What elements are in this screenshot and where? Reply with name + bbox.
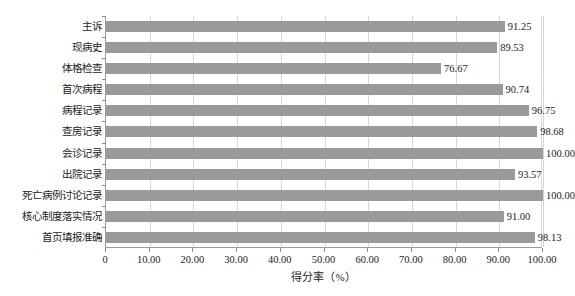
x-axis-tick-label: 30.00 bbox=[224, 253, 248, 266]
x-axis-tick bbox=[149, 248, 150, 252]
category-label: 会诊记录 bbox=[62, 148, 102, 159]
x-axis-tick bbox=[236, 248, 237, 252]
bar-row: 会诊记录100.00 bbox=[106, 143, 541, 164]
bar bbox=[106, 42, 497, 53]
bar bbox=[106, 105, 529, 116]
x-axis-tick-label: 50.00 bbox=[312, 253, 336, 266]
x-axis-tick bbox=[542, 248, 543, 252]
x-axis-tick-label: 70.00 bbox=[399, 253, 423, 266]
y-axis-tick bbox=[102, 185, 106, 186]
x-axis-tick-label: 60.00 bbox=[355, 253, 379, 266]
bars-layer: 主诉91.25现病史89.53体格检查76.67首次病程90.74病程记录96.… bbox=[106, 16, 541, 247]
category-label: 出院记录 bbox=[62, 169, 102, 180]
category-label: 查房记录 bbox=[62, 126, 102, 137]
value-label: 98.13 bbox=[538, 232, 562, 243]
bar-row: 首次病程90.74 bbox=[106, 79, 541, 100]
x-axis-tick bbox=[280, 248, 281, 252]
value-label: 100.00 bbox=[546, 190, 575, 201]
x-axis-tick bbox=[498, 248, 499, 252]
category-label: 首页填报准确 bbox=[42, 232, 102, 243]
bar-row: 首页填报准确98.13 bbox=[106, 227, 541, 248]
bar bbox=[106, 211, 504, 222]
category-label: 主诉 bbox=[82, 21, 102, 32]
x-axis-tick-labels: 010.0020.0030.0040.0050.0060.0070.0080.0… bbox=[105, 253, 542, 267]
category-label: 死亡病例讨论记录 bbox=[22, 190, 102, 201]
x-axis-title: 得分率（%） bbox=[105, 268, 542, 284]
figure-caption bbox=[0, 288, 573, 296]
x-axis-tick bbox=[324, 248, 325, 252]
bar bbox=[106, 126, 537, 137]
y-axis-tick bbox=[102, 100, 106, 101]
y-axis-tick bbox=[102, 58, 106, 59]
category-label: 病程记录 bbox=[62, 105, 102, 116]
value-label: 76.67 bbox=[444, 63, 468, 74]
y-axis-tick bbox=[102, 121, 106, 122]
value-label: 91.25 bbox=[508, 21, 532, 32]
y-axis-tick bbox=[102, 206, 106, 207]
value-label: 91.00 bbox=[507, 211, 531, 222]
y-axis-tick bbox=[102, 143, 106, 144]
bar bbox=[106, 148, 543, 159]
value-label: 96.75 bbox=[532, 105, 556, 116]
bar bbox=[106, 190, 543, 201]
x-axis-tick-label: 0 bbox=[102, 253, 107, 266]
x-axis-tick-label: 20.00 bbox=[181, 253, 205, 266]
bar bbox=[106, 21, 505, 32]
x-axis-tick bbox=[411, 248, 412, 252]
y-axis-tick bbox=[102, 79, 106, 80]
bar-row: 核心制度落实情况91.00 bbox=[106, 206, 541, 227]
bar-row: 出院记录93.57 bbox=[106, 164, 541, 185]
x-axis-tick bbox=[192, 248, 193, 252]
x-axis-tick bbox=[105, 248, 106, 252]
bar-row: 病程记录96.75 bbox=[106, 100, 541, 121]
bar bbox=[106, 84, 503, 95]
bar-row: 死亡病例讨论记录100.00 bbox=[106, 185, 541, 206]
category-label: 首次病程 bbox=[62, 84, 102, 95]
bar bbox=[106, 63, 441, 74]
category-label: 核心制度落实情况 bbox=[22, 211, 102, 222]
y-axis-tick bbox=[102, 16, 106, 17]
plot-area: 主诉91.25现病史89.53体格检查76.67首次病程90.74病程记录96.… bbox=[105, 16, 542, 248]
x-axis-tick bbox=[455, 248, 456, 252]
value-label: 100.00 bbox=[546, 148, 575, 159]
category-label: 现病史 bbox=[72, 42, 102, 53]
x-axis-tick-label: 40.00 bbox=[268, 253, 292, 266]
x-axis-tick bbox=[367, 248, 368, 252]
y-axis-tick bbox=[102, 37, 106, 38]
bar-row: 体格检查76.67 bbox=[106, 58, 541, 79]
value-label: 93.57 bbox=[518, 169, 542, 180]
y-axis-tick bbox=[102, 164, 106, 165]
x-axis-tick-label: 80.00 bbox=[443, 253, 467, 266]
bar-row: 查房记录98.68 bbox=[106, 121, 541, 142]
bar bbox=[106, 169, 515, 180]
bar-row: 主诉91.25 bbox=[106, 16, 541, 37]
bar bbox=[106, 232, 535, 243]
x-axis-tick-label: 100.00 bbox=[528, 253, 557, 266]
y-axis-tick bbox=[102, 227, 106, 228]
x-axis-tick-label: 10.00 bbox=[137, 253, 161, 266]
value-label: 90.74 bbox=[506, 84, 530, 95]
category-label: 体格检查 bbox=[62, 63, 102, 74]
value-label: 89.53 bbox=[500, 42, 524, 53]
bar-row: 现病史89.53 bbox=[106, 37, 541, 58]
value-label: 98.68 bbox=[540, 126, 564, 137]
x-axis-tick-label: 90.00 bbox=[486, 253, 510, 266]
